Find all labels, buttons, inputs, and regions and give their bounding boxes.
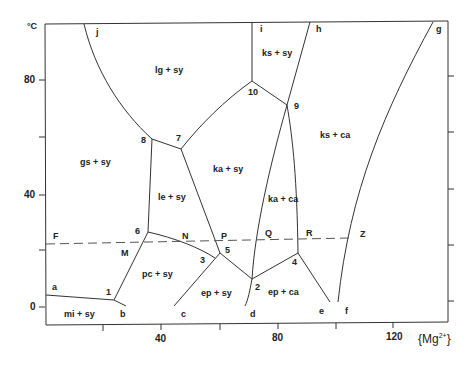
point-3: 3 [200,255,205,265]
endpoint-e: e [319,306,324,316]
isotherm-dashed-line [46,238,350,244]
boundary-9-2 [252,105,287,279]
boundary-2-d [245,279,252,306]
boundary-5-2 [220,253,252,279]
boundary-4-e [298,253,330,302]
region-ep-ca: ep + ca [268,287,299,297]
endpoint-j: j [96,27,99,37]
x-axis-unit: {Mg2+} [418,332,451,346]
y-tick-40: 40 [24,189,35,200]
isotherm-R: R [306,228,313,238]
region-ka-ca: ka + ca [268,194,298,204]
boundary-j-8 [84,24,152,139]
endpoint-i: i [260,24,263,34]
point-8: 8 [141,135,146,145]
endpoint-g: g [436,24,442,34]
y-tick-0: 0 [30,301,36,312]
boundary-g-f [338,22,433,302]
point-1: 1 [106,287,111,297]
x-tick-80: 80 [272,332,283,343]
region-le-sy: le + sy [158,192,186,202]
x-tick-40: 40 [155,333,166,344]
region-lg-sy: lg + sy [155,65,183,75]
point-10: 10 [248,87,258,97]
boundary-1-b [114,300,126,306]
isotherm-N: N [182,231,189,241]
region-ks-sy: ks + sy [262,48,292,58]
boundary-5-c [174,253,220,306]
boundary-h-9 [287,22,310,105]
isotherm-Z: Z [360,229,366,239]
endpoint-c: c [181,309,186,319]
point-9: 9 [294,101,299,111]
point-7: 7 [176,133,181,143]
isotherm-F: F [53,231,59,241]
boundary-a-1 [46,295,114,300]
region-ep-sy: ep + sy [201,288,232,298]
x-tick-120: 120 [386,331,403,342]
endpoint-b: b [120,309,126,319]
region-mi-sy: mi + sy [64,309,95,319]
region-pc-sy: pc + sy [142,269,173,279]
y-axis-unit: °C [27,21,37,31]
plot-frame [45,21,448,325]
point-5: 5 [225,245,230,255]
boundary-9-4 [287,105,298,253]
boundary-7-10 [181,81,252,149]
endpoint-d: d [250,309,256,319]
region-ks-ca: ks + ca [320,130,350,140]
endpoint-a: a [52,282,57,292]
endpoint-f: f [345,306,348,316]
region-ka-sy: ka + sy [213,164,243,174]
endpoint-h: h [316,24,322,34]
point-6: 6 [135,226,140,236]
point-4: 4 [292,257,297,267]
region-gs-sy: gs + sy [80,157,111,167]
y-tick-80: 80 [24,74,35,85]
isotherm-Q: Q [265,228,272,238]
point-2: 2 [255,282,260,292]
isotherm-M: M [121,248,129,258]
boundary-8-6 [148,139,152,232]
isotherm-P: P [221,231,227,241]
